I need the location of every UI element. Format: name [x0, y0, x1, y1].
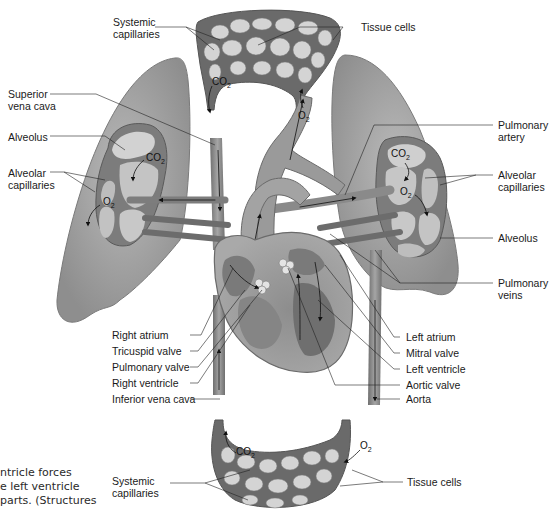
label-superior-vena-cava: Superior vena cava [8, 88, 56, 112]
o2-label-right-lung: O2 [400, 186, 412, 199]
co2-label-right-lung: CO2 [391, 148, 410, 161]
co2-label-left-lung: CO2 [146, 152, 165, 165]
label-tissue-cells-top: Tissue cells [361, 21, 415, 33]
systemic-capillary-bed-top [196, 10, 340, 120]
label-aorta: Aorta [406, 393, 431, 405]
o2-label-left-lung: O2 [103, 196, 115, 209]
label-inferior-vena-cava: Inferior vena cava [112, 393, 195, 405]
caption-fragment: ntricle forces e left ventricle parts. (… [0, 466, 96, 508]
caption-line: ntricle forces [0, 466, 96, 480]
label-alveolus-left: Alveolus [8, 131, 48, 143]
right-lung [332, 55, 458, 295]
caption-line: parts. (Structures [0, 494, 96, 508]
label-mitral-valve: Mitral valve [406, 347, 459, 359]
label-left-atrium: Left atrium [406, 331, 456, 343]
label-alveolus-right: Alveolus [498, 232, 538, 244]
label-right-atrium: Right atrium [112, 329, 169, 341]
anatomy-illustration [0, 0, 553, 514]
label-tissue-cells-bottom: Tissue cells [407, 476, 461, 488]
label-left-ventricle: Left ventricle [406, 363, 466, 375]
label-aortic-valve: Aortic valve [406, 379, 460, 391]
o2-label-bottom: O2 [360, 440, 372, 453]
caption-line: e left ventricle [0, 480, 96, 494]
label-pulmonary-valve: Pulmonary valve [112, 361, 190, 373]
label-pulmonary-artery: Pulmonary artery [498, 119, 548, 143]
label-alveolar-capillaries-right: Alveolar capillaries [498, 169, 545, 193]
label-right-ventricle: Right ventricle [112, 377, 179, 389]
circulation-diagram: Systemic capillaries Superior vena cava … [0, 0, 553, 514]
label-systemic-capillaries-top: Systemic capillaries [113, 16, 160, 40]
systemic-capillary-bed-bottom [212, 420, 351, 508]
label-pulmonary-veins: Pulmonary veins [498, 277, 548, 301]
label-systemic-capillaries-bottom: Systemic capillaries [112, 475, 159, 499]
great-vessels [241, 95, 345, 255]
label-tricuspid-valve: Tricuspid valve [112, 345, 182, 357]
label-alveolar-capillaries-left: Alveolar capillaries [8, 167, 55, 191]
co2-label-top: CO2 [212, 76, 231, 89]
aorta-vessel [368, 250, 382, 405]
co2-label-bottom: CO2 [236, 446, 255, 459]
o2-label-top: O2 [298, 110, 310, 123]
left-lung [57, 58, 190, 322]
